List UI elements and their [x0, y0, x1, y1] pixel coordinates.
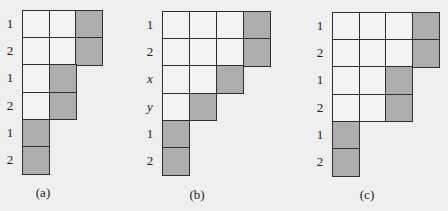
empty-cell	[22, 10, 50, 39]
empty-cell	[22, 37, 50, 66]
row-label: 2	[142, 38, 158, 65]
row-label: 2	[2, 92, 18, 119]
empty-cell	[359, 94, 387, 123]
empty-cell	[332, 94, 360, 123]
empty-cell	[22, 92, 50, 121]
shaded-cell	[75, 10, 103, 39]
shaded-cell	[332, 148, 360, 177]
row-label: 1	[2, 10, 18, 37]
row-label: 1	[2, 64, 18, 91]
empty-cell	[359, 12, 387, 41]
row-label: 2	[312, 94, 328, 121]
empty-cell	[332, 39, 360, 68]
shaded-cell	[162, 120, 190, 149]
empty-cell	[332, 12, 360, 41]
row-label: 1	[142, 120, 158, 147]
row-label: 1	[312, 12, 328, 39]
shaded-cell	[162, 147, 190, 176]
empty-cell	[216, 38, 244, 67]
shaded-cell	[385, 66, 413, 95]
shaded-cell	[49, 64, 77, 93]
empty-cell	[162, 11, 190, 40]
row-label: 2	[312, 148, 328, 175]
empty-cell	[189, 65, 217, 94]
empty-cell	[216, 11, 244, 40]
empty-cell	[22, 64, 50, 93]
row-label: y	[142, 93, 158, 120]
shaded-cell	[243, 38, 271, 67]
shaded-cell	[216, 65, 244, 94]
shaded-cell	[332, 121, 360, 150]
shaded-cell	[385, 94, 413, 123]
empty-cell	[359, 66, 387, 95]
shaded-cell	[75, 37, 103, 66]
empty-cell	[189, 38, 217, 67]
shaded-cell	[243, 11, 271, 40]
empty-cell	[162, 38, 190, 67]
empty-cell	[332, 66, 360, 95]
caption-c: (c)	[352, 187, 382, 203]
row-label: 1	[2, 119, 18, 146]
row-label: 1	[142, 11, 158, 38]
empty-cell	[385, 12, 413, 41]
row-label: 2	[2, 146, 18, 173]
row-label: 1	[312, 66, 328, 93]
shaded-cell	[22, 119, 50, 148]
empty-cell	[189, 11, 217, 40]
empty-cell	[162, 93, 190, 122]
empty-cell	[385, 39, 413, 68]
empty-cell	[49, 37, 77, 66]
row-label: x	[142, 65, 158, 92]
shaded-cell	[412, 39, 440, 68]
empty-cell	[49, 10, 77, 39]
caption-a: (a)	[28, 185, 58, 201]
shaded-cell	[22, 146, 50, 175]
row-label: 2	[2, 37, 18, 64]
shaded-cell	[412, 12, 440, 41]
shaded-cell	[49, 92, 77, 121]
empty-cell	[162, 65, 190, 94]
row-label: 2	[142, 147, 158, 174]
row-label: 2	[312, 39, 328, 66]
empty-cell	[359, 39, 387, 68]
row-label: 1	[312, 121, 328, 148]
caption-b: (b)	[182, 187, 212, 203]
shaded-cell	[189, 93, 217, 122]
